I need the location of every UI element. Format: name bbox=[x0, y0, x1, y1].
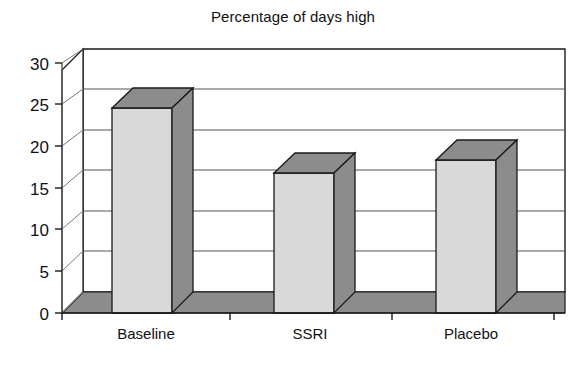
bar-ssri-front bbox=[274, 173, 334, 313]
bar-placebo-side bbox=[496, 140, 517, 313]
bar-placebo-front bbox=[436, 160, 496, 313]
chart-container: Percentage of days high bbox=[0, 0, 586, 367]
bar-baseline-side bbox=[172, 88, 193, 313]
y-tick-label-25: 25 bbox=[30, 96, 49, 115]
y-tick-label-5: 5 bbox=[40, 263, 49, 282]
x-category-label-placebo: Placebo bbox=[444, 325, 498, 342]
bar-baseline[interactable] bbox=[112, 88, 193, 313]
y-axis bbox=[55, 63, 62, 313]
bar-placebo[interactable] bbox=[436, 140, 517, 313]
y-tick-label-30: 30 bbox=[30, 55, 49, 74]
y-tick-label-0: 0 bbox=[40, 305, 49, 324]
y-tick-label-10: 10 bbox=[30, 221, 49, 240]
bar-ssri-side bbox=[334, 153, 355, 313]
x-category-label-baseline: Baseline bbox=[117, 325, 175, 342]
y-tick-label-15: 15 bbox=[30, 180, 49, 199]
bar-ssri[interactable] bbox=[274, 153, 355, 313]
bar-baseline-front bbox=[112, 108, 172, 313]
x-category-label-ssri: SSRI bbox=[292, 325, 327, 342]
bar-chart-plot: 30 25 20 15 10 5 0 bbox=[0, 0, 586, 367]
y-tick-label-20: 20 bbox=[30, 138, 49, 157]
x-axis bbox=[62, 313, 565, 320]
left-wall bbox=[62, 49, 83, 313]
